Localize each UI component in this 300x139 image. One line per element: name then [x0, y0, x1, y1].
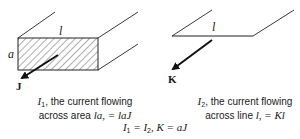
caption-text: across line: [205, 110, 256, 121]
surface-current-arrow-K: [173, 40, 212, 69]
slab-volume: [18, 12, 138, 70]
sheet-right-edge: [253, 10, 294, 36]
slab-height-label: a: [8, 49, 14, 60]
slab-top-left-edge: [18, 12, 55, 38]
slab-width-label: l: [59, 26, 62, 37]
right-caption-line2: across line l, = Kl: [190, 110, 300, 121]
sheet-length-label: l: [212, 22, 215, 33]
caption-math: l, = Kl: [256, 109, 285, 121]
slab-top-right-edge: [98, 12, 138, 38]
vector-K-label: K: [168, 74, 177, 85]
relation-equation: I1 = I2, K = aJ: [100, 122, 210, 136]
hatched-cross-section: [18, 38, 98, 70]
equals-sign: =: [130, 121, 143, 133]
caption-text: , the current flowing: [205, 96, 292, 107]
caption-text: across area: [39, 110, 94, 121]
caption-math: la, = laJ: [94, 109, 132, 121]
equation-rest: , K = aJ: [151, 121, 187, 133]
right-caption-line1: I2, the current flowing: [190, 96, 300, 110]
slab-bottom-right-edge: [98, 44, 138, 70]
caption-text: , the current flowing: [45, 96, 132, 107]
left-caption: I1, the current flowing across area la, …: [30, 96, 140, 121]
sheet-left-edge: [172, 10, 212, 36]
current-sheet: [172, 10, 294, 36]
left-caption-line1: I1, the current flowing: [30, 96, 140, 110]
vector-J-label: J: [16, 81, 22, 92]
right-caption: I2, the current flowing across line l, =…: [190, 96, 300, 121]
left-caption-line2: across area la, = laJ: [30, 110, 140, 121]
